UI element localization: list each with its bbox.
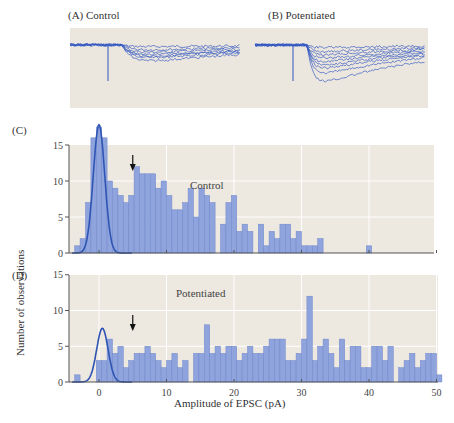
histogram-bar <box>275 339 280 382</box>
histogram-bar <box>226 203 231 253</box>
histogram-bar <box>302 339 307 382</box>
histogram-bar <box>129 195 134 253</box>
y-tick-label: 15 <box>53 269 63 280</box>
y-tick-label: 10 <box>53 305 63 316</box>
histogram-bar <box>248 231 253 253</box>
y-axis-title: Number of observations <box>14 250 26 356</box>
histogram-bar <box>194 217 199 253</box>
histogram-bar <box>312 361 317 382</box>
histogram-bar <box>280 339 285 382</box>
y-tick-label: 0 <box>58 377 63 388</box>
histogram-bar <box>75 246 80 253</box>
y-tick-label: 5 <box>58 341 63 352</box>
y-tick-label: 0 <box>58 248 63 259</box>
histogram-bar <box>183 361 188 382</box>
histogram-bar <box>161 181 166 253</box>
histogram-bar <box>269 339 274 382</box>
histogram-bar <box>285 361 290 382</box>
potentiated-histogram: 05101501020304050Potentiated <box>53 269 442 398</box>
histogram-bar <box>296 231 301 253</box>
histogram-bar <box>129 361 134 382</box>
histogram-bar <box>366 368 371 382</box>
histogram-bar <box>140 353 145 382</box>
histogram-bar <box>167 361 172 382</box>
histogram-bar <box>161 368 166 382</box>
histogram-bar <box>172 210 177 253</box>
histogram-bar <box>221 353 226 382</box>
histogram-bar <box>107 181 112 253</box>
x-tick-label: 40 <box>364 387 374 398</box>
histogram-bar <box>356 346 361 382</box>
x-tick-label: 50 <box>432 387 442 398</box>
histogram-bar <box>264 346 269 382</box>
histogram-bar <box>399 368 404 382</box>
histogram-bar <box>86 203 91 253</box>
y-tick-label: 15 <box>53 140 63 151</box>
histogram-bar <box>312 246 317 253</box>
histogram-bar <box>134 353 139 382</box>
histogram-bar <box>113 188 118 253</box>
histogram-bar <box>318 346 323 382</box>
histogram-bar <box>183 203 188 253</box>
histogram-bar <box>334 368 339 382</box>
histogram-bar <box>134 167 139 253</box>
histogram-bar <box>118 195 123 253</box>
histogram-bar <box>140 174 145 253</box>
epsc-traces <box>70 28 428 108</box>
histogram-bar <box>102 138 107 253</box>
histogram-bar <box>150 353 155 382</box>
gaussian-fit-curve <box>72 125 132 253</box>
histogram-bar <box>383 361 388 382</box>
histogram-bar <box>307 246 312 253</box>
histogram-bar <box>420 361 425 382</box>
histogram-bar <box>323 339 328 382</box>
histogram-bar <box>415 368 420 382</box>
histogram-bar <box>361 368 366 382</box>
histogram-bar <box>231 346 236 382</box>
histogram-bar <box>102 361 107 382</box>
histogram-bar <box>302 246 307 253</box>
histogram-bar <box>145 174 150 253</box>
panel-b-label: (B) Potentiated <box>268 9 335 21</box>
histogram-bar <box>107 339 112 382</box>
x-tick-label: 30 <box>297 387 307 398</box>
histogram-bar <box>431 353 436 382</box>
histogram-bar <box>248 346 253 382</box>
histogram-bar <box>350 346 355 382</box>
panel-c-label: (C) <box>12 124 27 136</box>
control-histogram: 051015Control <box>53 125 437 259</box>
histogram-bar <box>113 353 118 382</box>
histogram-bar <box>221 224 226 253</box>
histogram-bar <box>167 195 172 253</box>
histogram-bar <box>253 353 258 382</box>
gaussian-fit-curve <box>72 328 132 382</box>
histogram-bar <box>242 353 247 382</box>
panel-a-label: (A) Control <box>68 9 120 21</box>
histogram-bar <box>404 361 409 382</box>
histogram-bar <box>210 203 215 253</box>
histogram-bar <box>237 361 242 382</box>
histogram-bar <box>275 239 280 253</box>
histogram-bar <box>204 325 209 382</box>
histogram-bar <box>199 188 204 253</box>
histogram-bar <box>177 368 182 382</box>
histogram-bar <box>231 195 236 253</box>
histogram-bar <box>194 353 199 382</box>
histogram-bar <box>150 174 155 253</box>
histogram-bar <box>237 231 242 253</box>
histogram-bar <box>188 188 193 253</box>
plot-annotation: Potentiated <box>176 287 226 299</box>
histogram-bar <box>426 353 431 382</box>
histogram-bar <box>296 353 301 382</box>
histogram-bar <box>96 361 101 382</box>
histogram-bar <box>204 195 209 253</box>
histogram-bar <box>210 353 215 382</box>
histogram-bar <box>291 361 296 382</box>
histogram-bar <box>366 246 371 253</box>
histogram-bar <box>291 239 296 253</box>
histogram-bar <box>123 368 128 382</box>
histogram-bar <box>91 138 96 253</box>
histogram-bar <box>388 346 393 382</box>
histogram-bar <box>75 375 80 382</box>
histogram-bar <box>258 224 263 253</box>
